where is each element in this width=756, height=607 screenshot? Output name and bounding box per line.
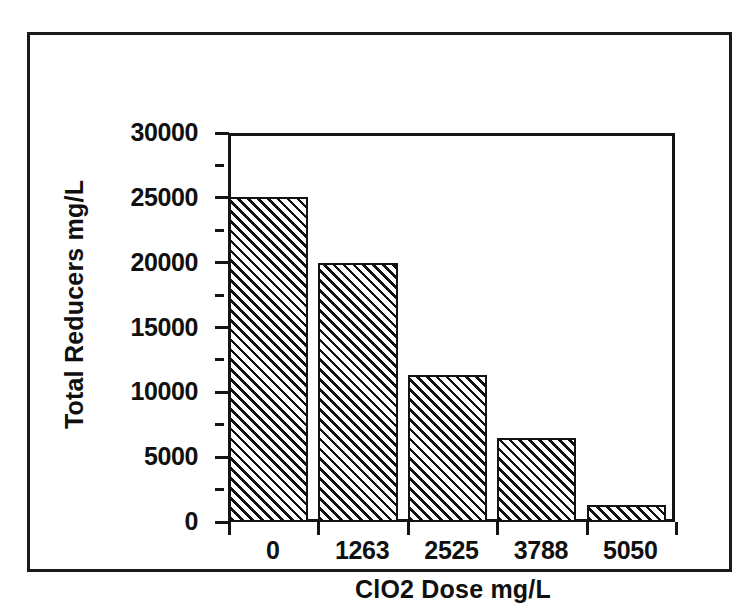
y-axis-tick-label: 20000: [130, 250, 198, 275]
y-axis-tick-major: [215, 196, 229, 199]
y-axis-tick-label: 10000: [130, 379, 198, 404]
bar: [408, 375, 487, 522]
y-axis-tick-minor: [215, 488, 224, 491]
bar: [587, 505, 666, 522]
y-axis-tick-label: 0: [184, 509, 198, 534]
bar: [318, 263, 397, 522]
bar: [229, 197, 308, 522]
x-axis-tick-label: 2525: [407, 538, 496, 563]
x-axis-tick-label: 1263: [317, 538, 406, 563]
y-axis-tick-label: 5000: [144, 444, 198, 469]
bar-series: [228, 133, 675, 522]
x-axis-tick-label: 0: [228, 538, 317, 563]
x-axis-tick: [407, 522, 410, 535]
x-axis-tick: [586, 522, 589, 535]
x-axis-tick-label: 5050: [586, 538, 675, 563]
y-axis-tick-label: 25000: [130, 185, 198, 210]
y-axis-tick-minor: [215, 229, 224, 232]
y-axis-tick-minor: [215, 294, 224, 297]
y-axis-tick-major: [215, 261, 229, 264]
x-axis-tick: [228, 522, 231, 535]
x-axis-tick: [675, 522, 678, 535]
y-axis-tick-major: [215, 391, 229, 394]
y-axis-tick-major: [215, 521, 229, 524]
x-axis-tick-label: 3788: [496, 538, 585, 563]
y-axis-tick-major: [215, 456, 229, 459]
x-axis-tick: [496, 522, 499, 535]
figure-border: Total Reducers mg/L 05000100001500020000…: [27, 32, 732, 572]
x-axis-labels: 01263252537885050: [228, 538, 678, 570]
y-axis-tick-major: [215, 326, 229, 329]
y-axis-tick-major: [215, 132, 229, 135]
x-axis-tick: [317, 522, 320, 535]
y-axis-labels: 050001000015000200002500030000: [30, 133, 212, 522]
x-axis-title: ClO2 Dose mg/L: [228, 575, 678, 604]
y-axis-tick-minor: [215, 423, 224, 426]
x-axis-ticks: [228, 522, 678, 536]
y-axis-tick-minor: [215, 358, 224, 361]
y-axis-tick-label: 30000: [130, 120, 198, 145]
bar: [497, 438, 576, 522]
y-axis-tick-label: 15000: [130, 315, 198, 340]
y-axis-tick-minor: [215, 164, 224, 167]
